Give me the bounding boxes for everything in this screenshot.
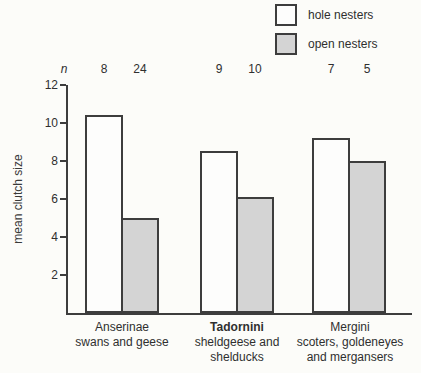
y-tick-mark: [60, 236, 66, 238]
y-tick-mark: [60, 198, 66, 200]
n-value-open-group-3: 5: [364, 62, 371, 76]
group-label-line: and mergansers: [297, 350, 404, 365]
y-tick-label: 6: [34, 192, 58, 206]
group-label-line: scoters, goldeneyes: [297, 335, 404, 350]
legend-item-hole-nesters: hole nesters: [275, 4, 377, 26]
group-label-2: Tadorninisheldgeese andshelducks: [195, 320, 280, 365]
y-tick-label: 2: [34, 268, 58, 282]
y-tick-mark: [60, 274, 66, 276]
group-label-line: Anserinae: [75, 320, 168, 335]
bar-open-nesters-group-1: [121, 218, 159, 313]
x-axis-line: [66, 313, 412, 315]
bar-hole-nesters-group-1: [85, 115, 123, 313]
n-value-hole-group-1: 8: [101, 62, 108, 76]
legend-label-open-nesters: open nesters: [308, 37, 377, 51]
legend-item-open-nesters: open nesters: [275, 33, 377, 55]
legend-label-hole-nesters: hole nesters: [308, 8, 373, 22]
y-axis-line: [66, 85, 68, 313]
y-tick-mark: [60, 122, 66, 124]
bar-hole-nesters-group-2: [200, 151, 238, 313]
n-value-open-group-1: 24: [133, 62, 146, 76]
group-label-line: Tadornini: [195, 320, 280, 335]
bar-open-nesters-group-3: [348, 161, 386, 313]
n-value-hole-group-3: 7: [328, 62, 335, 76]
group-label-line: Mergini: [297, 320, 404, 335]
group-label-line: sheldgeese and: [195, 335, 280, 350]
y-tick-mark: [60, 84, 66, 86]
n-value-open-group-2: 10: [248, 62, 261, 76]
hole-nesters-swatch: [275, 4, 297, 26]
bar-hole-nesters-group-3: [312, 138, 350, 313]
y-tick-label: 8: [34, 154, 58, 168]
y-tick-label: 10: [34, 116, 58, 130]
n-value-hole-group-2: 9: [216, 62, 223, 76]
group-label-3: Merginiscoters, goldeneyesand mergansers: [297, 320, 404, 365]
y-axis-label: mean clutch size: [10, 139, 26, 259]
group-label-1: Anserinaeswans and geese: [75, 320, 168, 350]
y-tick-label: 12: [34, 78, 58, 92]
y-tick-mark: [60, 160, 66, 162]
sample-size-symbol: n: [61, 62, 68, 76]
open-nesters-swatch: [275, 33, 297, 55]
group-label-line: swans and geese: [75, 335, 168, 350]
bar-open-nesters-group-2: [236, 197, 274, 313]
legend: hole nesters open nesters: [275, 4, 377, 55]
clutch-size-bar-chart: hole nesters open nesters n mean clutch …: [0, 0, 421, 373]
y-tick-label: 4: [34, 230, 58, 244]
group-label-line: shelducks: [195, 350, 280, 365]
